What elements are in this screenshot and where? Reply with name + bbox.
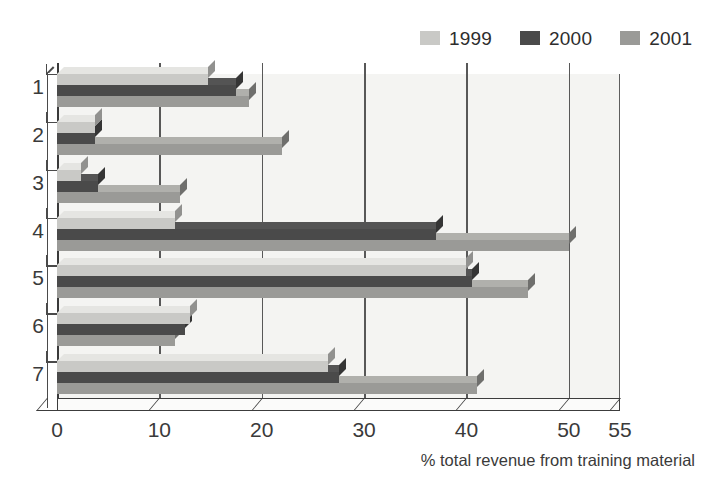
category-tick-riser-6 [46, 303, 47, 314]
bar-2001-cat-7 [57, 383, 477, 394]
bar-2000-cat-5 [57, 276, 472, 287]
bar-2001-cat-2 [57, 144, 282, 155]
category-tick-riser-3 [46, 160, 47, 171]
bar-face [57, 74, 208, 85]
category-tick-riser-1 [46, 64, 47, 75]
bar-1999-cat-7 [57, 361, 328, 372]
x-tick-label-0: 0 [51, 419, 63, 440]
bar-2000-cat-2 [57, 133, 95, 144]
bar-face [57, 324, 185, 335]
bar-face [57, 133, 95, 144]
category-tick-2 [46, 122, 57, 123]
bar-2001-cat-6 [57, 335, 175, 346]
y-axis-label-7: 7 [18, 363, 44, 384]
x-axis-face [57, 398, 620, 411]
x-tick-label-30: 30 [352, 419, 375, 440]
bar-1999-cat-5 [57, 265, 466, 276]
chart-legend: 199920002001 [420, 26, 692, 50]
bar-face [57, 144, 282, 155]
gridline-40 [466, 63, 468, 398]
legend-item: 2001 [620, 29, 692, 48]
y-axis-label-4: 4 [18, 220, 44, 241]
bar-face [57, 361, 328, 372]
bar-2000-cat-3 [57, 181, 98, 192]
category-tick-riser-2 [46, 112, 47, 123]
y-axis-label-1: 1 [18, 76, 44, 97]
bar-face [57, 192, 180, 203]
plot-depth-wall [47, 73, 57, 408]
legend-label: 1999 [449, 29, 492, 48]
bar-1999-cat-2 [57, 122, 95, 133]
category-tick-6 [46, 313, 57, 314]
legend-swatch-1999 [420, 31, 440, 45]
bar-top-bevel [57, 211, 182, 218]
plot-area [57, 63, 620, 398]
bar-face [57, 335, 175, 346]
bar-face [57, 85, 236, 96]
bar-top-bevel [57, 258, 473, 265]
legend-label: 2001 [649, 29, 692, 48]
bar-1999-cat-3 [57, 170, 81, 181]
y-axis-label-5: 5 [18, 267, 44, 288]
bar-2001-cat-3 [57, 192, 180, 203]
bar-face [57, 229, 436, 240]
bar-top-bevel [57, 67, 215, 74]
bar-2001-cat-5 [57, 287, 528, 298]
legend-item: 2000 [520, 29, 592, 48]
bar-face [57, 287, 528, 298]
y-axis-label-3: 3 [18, 172, 44, 193]
x-tick-label-50: 50 [557, 419, 580, 440]
category-tick-riser-7 [46, 351, 47, 362]
bar-face [57, 265, 466, 276]
bar-face [57, 181, 98, 192]
x-tick-label-40: 40 [455, 419, 478, 440]
bar-top-bevel [57, 354, 335, 361]
bar-top-bevel [57, 306, 197, 313]
bar-2001-cat-4 [57, 240, 569, 251]
y-axis-label-2: 2 [18, 124, 44, 145]
legend-label: 2000 [549, 29, 592, 48]
bar-2001-cat-1 [57, 96, 249, 107]
bar-1999-cat-1 [57, 74, 208, 85]
x-tick-label-20: 20 [250, 419, 273, 440]
category-tick-7 [46, 361, 57, 362]
legend-swatch-2000 [520, 31, 540, 45]
legend-item: 1999 [420, 29, 492, 48]
x-axis [47, 398, 620, 413]
bar-face [57, 276, 472, 287]
bar-face [57, 218, 175, 229]
bar-2000-cat-6 [57, 324, 185, 335]
bar-face [57, 96, 249, 107]
bar-face [57, 313, 190, 324]
legend-swatch-2001 [620, 31, 640, 45]
x-axis-title: % total revenue from training material [421, 452, 695, 469]
bar-chart: 199920002001 1234567 0102030405055 % tot… [0, 0, 709, 489]
bar-face [57, 170, 81, 181]
bar-2000-cat-1 [57, 85, 236, 96]
bar-1999-cat-6 [57, 313, 190, 324]
bar-face [57, 383, 477, 394]
category-tick-1 [46, 74, 57, 75]
bar-face [57, 372, 339, 383]
bar-1999-cat-4 [57, 218, 175, 229]
bar-2000-cat-4 [57, 229, 436, 240]
bar-face [57, 240, 569, 251]
x-tick-label-55: 55 [608, 419, 631, 440]
category-tick-riser-4 [46, 208, 47, 219]
category-tick-riser-5 [46, 255, 47, 266]
category-tick-5 [46, 265, 57, 266]
x-tick-label-10: 10 [148, 419, 171, 440]
y-axis-label-6: 6 [18, 315, 44, 336]
bar-2000-cat-7 [57, 372, 339, 383]
bar-face [57, 122, 95, 133]
